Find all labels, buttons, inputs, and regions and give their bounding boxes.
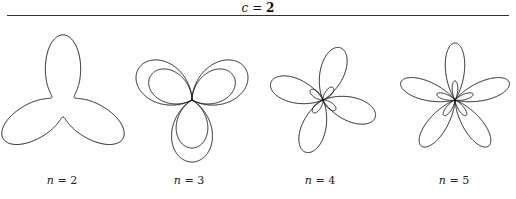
label-eq: = xyxy=(312,174,328,187)
label-value: 4 xyxy=(328,174,335,187)
panel-label-n4: n = 4 xyxy=(280,174,360,187)
label-eq: = xyxy=(181,174,197,187)
panel-label-n2: n = 2 xyxy=(22,174,102,187)
label-value: 2 xyxy=(70,174,77,187)
label-value: 3 xyxy=(197,174,204,187)
curves-canvas xyxy=(0,0,516,199)
label-var: n xyxy=(305,174,312,187)
label-var: n xyxy=(174,174,181,187)
panel-label-n3: n = 3 xyxy=(149,174,229,187)
label-var: n xyxy=(47,174,54,187)
curve-n4 xyxy=(270,47,375,152)
label-value: 5 xyxy=(462,174,469,187)
label-eq: = xyxy=(54,174,70,187)
curve-n2 xyxy=(2,35,124,145)
label-eq: = xyxy=(446,174,462,187)
panel-label-n5: n = 5 xyxy=(414,174,494,187)
curve-n3 xyxy=(136,60,248,162)
curve-n5 xyxy=(401,43,510,147)
label-var: n xyxy=(439,174,446,187)
